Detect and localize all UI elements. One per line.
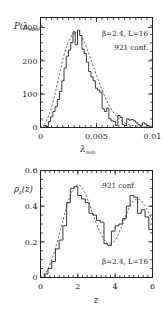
top-x-axis-label: λmin [79, 144, 95, 155]
top-configurations-annotation: 921 conf. [114, 43, 148, 52]
y-tick-label: 0.4 [25, 202, 38, 211]
bottom-configurations-annotation: 921 conf. [102, 181, 136, 190]
x-tick-label: 0.005 [85, 132, 108, 141]
chart-panel-bottom: 024600.20.40.6 ρs(z) z 921 conf. β=2.4, … [0, 160, 163, 317]
top-beta-L-annotation: β=2.4, L=16 [102, 29, 149, 38]
x-tick-label: 0 [38, 282, 43, 291]
bottom-y-axis-label: ρs(z) [13, 184, 33, 195]
top-plot-tick-labels: 00.0050.010100200300 [22, 23, 161, 140]
x-tick-label: 0 [38, 132, 43, 141]
chart-panel-top: 00.0050.010100200300 P(λmin) λmin β=2.4,… [0, 0, 163, 160]
bottom-plot-svg: 024600.20.40.6 ρs(z) z 921 conf. β=2.4, … [0, 160, 163, 317]
x-tick-label: 6 [150, 282, 155, 291]
top-plot-svg: 00.0050.010100200300 P(λmin) λmin β=2.4,… [0, 0, 163, 160]
y-tick-label: 100 [22, 90, 37, 99]
y-tick-label: 0 [32, 123, 37, 132]
x-tick-label: 2 [75, 282, 80, 291]
bottom-x-axis-label: z [93, 295, 99, 305]
x-tick-label: 4 [113, 282, 118, 291]
figure-container: 00.0050.010100200300 P(λmin) λmin β=2.4,… [0, 0, 163, 317]
x-tick-label: 0.01 [144, 132, 162, 141]
top-y-axis-label: P(λmin) [13, 21, 42, 32]
bottom-beta-L-annotation: β=2.4, L=16 [102, 257, 149, 266]
y-tick-label: 200 [22, 57, 37, 66]
y-tick-label: 0.6 [25, 166, 38, 175]
y-tick-label: 0.2 [25, 238, 38, 247]
y-tick-label: 0 [32, 273, 37, 282]
